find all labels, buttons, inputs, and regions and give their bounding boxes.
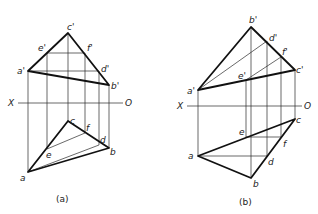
label-e-prime-b: e' bbox=[238, 71, 246, 81]
label-b-prime-b: b' bbox=[249, 15, 257, 25]
label-e-b: e bbox=[239, 127, 245, 137]
diagram-canvas: X O c' e' f' a' d' b' c f d b e a (a) bbox=[0, 0, 318, 214]
label-f-prime: f' bbox=[87, 43, 93, 53]
label-a: a bbox=[20, 173, 26, 183]
label-b-prime: b' bbox=[111, 81, 119, 91]
label-c-b: c bbox=[296, 115, 301, 125]
label-a-prime-b: a' bbox=[187, 86, 195, 96]
label-b: b bbox=[110, 147, 116, 157]
front-triangle-a bbox=[28, 33, 109, 85]
axis-x-label-b: X bbox=[176, 101, 184, 111]
label-e: e bbox=[46, 150, 52, 160]
figure-a: X O c' e' f' a' d' b' c f d b e a (a) bbox=[7, 22, 132, 204]
front-triangle-b bbox=[198, 27, 295, 90]
orthographic-projection-diagram: X O c' e' f' a' d' b' c f d b e a (a) bbox=[0, 0, 318, 214]
label-c: c bbox=[70, 116, 75, 126]
top-triangle-a bbox=[28, 121, 109, 172]
axis-o-label: O bbox=[125, 98, 132, 108]
label-d-b: d bbox=[268, 157, 274, 167]
axis-x-label: X bbox=[7, 98, 15, 108]
label-f: f bbox=[86, 123, 91, 133]
label-f-b: f bbox=[283, 139, 288, 149]
label-a-prime: a' bbox=[17, 66, 25, 76]
label-d-prime-b: d' bbox=[269, 33, 277, 43]
projection-lines-b bbox=[198, 27, 295, 178]
label-a-b: a bbox=[188, 151, 194, 161]
caption-b: (b) bbox=[239, 197, 252, 207]
label-d: d bbox=[100, 135, 106, 145]
label-f-prime-b: f' bbox=[282, 47, 288, 57]
axis-o-label-b: O bbox=[304, 101, 311, 111]
label-d-prime: d' bbox=[101, 64, 109, 74]
top-triangle-b bbox=[198, 119, 295, 178]
caption-a: (a) bbox=[56, 194, 69, 204]
figure-b: X O b' d' f' c' e' a' c e f a d b (b) bbox=[176, 15, 311, 207]
label-c-prime: c' bbox=[67, 22, 74, 32]
label-c-prime-b: c' bbox=[296, 65, 303, 75]
label-e-prime: e' bbox=[38, 43, 46, 53]
label-b-b: b bbox=[253, 179, 259, 189]
